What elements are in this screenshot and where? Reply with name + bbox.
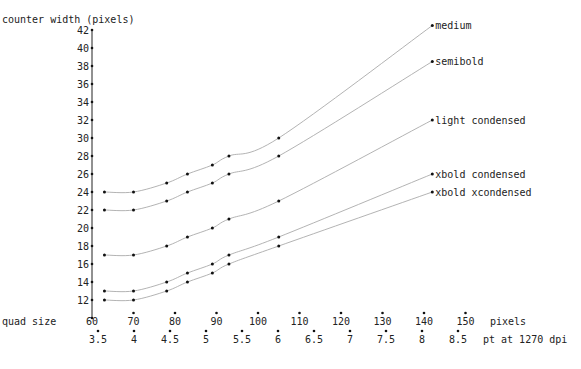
x-axis-label: quad size: [2, 316, 56, 327]
x2-tick-mark: [421, 330, 424, 333]
data-point: [211, 182, 214, 185]
x-ticks: 60708090100110120130140150: [86, 312, 475, 327]
x-tick-mark: [464, 312, 467, 315]
y-tick-label: 34: [77, 97, 89, 108]
y-tick-mark: [91, 29, 94, 32]
y-tick-label: 12: [77, 295, 89, 306]
x2-tick-mark: [385, 330, 388, 333]
series-curve: [104, 120, 432, 256]
data-point: [132, 209, 135, 212]
data-point: [277, 245, 280, 248]
data-point: [165, 290, 168, 293]
x-tick-mark: [132, 312, 135, 315]
y-tick-mark: [91, 191, 94, 194]
x2-tick-label: 5.5: [233, 334, 251, 345]
series-label: light condensed: [435, 115, 525, 126]
x2-tick-mark: [241, 330, 244, 333]
data-point: [211, 227, 214, 230]
x-tick-mark: [298, 312, 301, 315]
x-tick-mark: [257, 312, 260, 315]
x2-tick-label: 4: [131, 334, 137, 345]
x-tick-label: 130: [373, 316, 391, 327]
data-point: [103, 254, 106, 257]
x-tick-label: 150: [456, 316, 474, 327]
data-point: [227, 254, 230, 257]
y-tick-mark: [91, 47, 94, 50]
y-tick-mark: [91, 245, 94, 248]
x2-tick-mark: [133, 330, 136, 333]
x2-tick-mark: [97, 330, 100, 333]
x-tick-label: 100: [249, 316, 267, 327]
y-tick-label: 36: [77, 79, 89, 90]
x2-tick-label: 3.5: [89, 334, 107, 345]
data-point: [165, 281, 168, 284]
y-tick-label: 18: [77, 241, 89, 252]
y-tick-mark: [91, 263, 94, 266]
x2-tick-label: 6: [275, 334, 281, 345]
data-point: [186, 173, 189, 176]
x2-tick-label: 6.5: [305, 334, 323, 345]
x-axis-unit-label: pixels: [490, 316, 526, 327]
series-curve: [104, 192, 432, 301]
series-curve: [104, 174, 432, 292]
data-point: [103, 209, 106, 212]
x2-tick-mark: [169, 330, 172, 333]
data-point: [132, 290, 135, 293]
x2-tick-label: 5: [203, 334, 209, 345]
x-tick-mark: [381, 312, 384, 315]
series-label: medium: [435, 20, 471, 31]
data-point: [431, 60, 434, 63]
data-point: [431, 191, 434, 194]
y-tick-mark: [91, 65, 94, 68]
y-tick-label: 22: [77, 205, 89, 216]
data-point: [277, 137, 280, 140]
data-point: [103, 299, 106, 302]
series-xbold-xcondensed: xbold xcondensed: [103, 187, 532, 302]
x2-tick-label: 8.5: [449, 334, 467, 345]
series-curve: [104, 62, 432, 211]
x2-tick-label: 7: [347, 334, 353, 345]
y-tick-label: 32: [77, 115, 89, 126]
data-point: [227, 155, 230, 158]
y-tick-mark: [91, 209, 94, 212]
x2-tick-mark: [277, 330, 280, 333]
series-semibold: semibold: [103, 56, 484, 212]
x-tick-label: 60: [86, 316, 98, 327]
x-tick-mark: [340, 312, 343, 315]
x-tick-label: 110: [290, 316, 308, 327]
data-point: [211, 164, 214, 167]
y-tick-label: 30: [77, 133, 89, 144]
x2-axis-unit-label: pt at 1270 dpi: [483, 334, 567, 345]
x2-tick-mark: [349, 330, 352, 333]
data-point: [165, 245, 168, 248]
series-medium: medium: [103, 20, 471, 194]
chart: counter width (pixels) 12141618202224262…: [0, 0, 581, 369]
data-point: [277, 155, 280, 158]
x-tick-label: 70: [127, 316, 139, 327]
y-ticks: 12141618202224262830323436384042: [77, 25, 93, 320]
series-group: mediumsemiboldlight condensedxbold conde…: [103, 20, 532, 302]
y-tick-label: 16: [77, 259, 89, 270]
series-label: semibold: [435, 56, 483, 67]
y-tick-mark: [91, 155, 94, 158]
x-tick-label: 80: [169, 316, 181, 327]
data-point: [186, 281, 189, 284]
series-label: xbold condensed: [435, 169, 525, 180]
y-tick-label: 26: [77, 169, 89, 180]
y-tick-label: 38: [77, 61, 89, 72]
data-point: [186, 191, 189, 194]
x-tick-mark: [174, 312, 177, 315]
y-tick-label: 28: [77, 151, 89, 162]
data-point: [431, 24, 434, 27]
y-tick-label: 14: [77, 277, 89, 288]
series-label: xbold xcondensed: [435, 187, 531, 198]
data-point: [165, 182, 168, 185]
data-point: [165, 200, 168, 203]
x2-tick-label: 7.5: [377, 334, 395, 345]
data-point: [132, 254, 135, 257]
y-tick-label: 24: [77, 187, 89, 198]
data-point: [227, 173, 230, 176]
y-tick-mark: [91, 137, 94, 140]
y-tick-label: 20: [77, 223, 89, 234]
x2-ticks: 3.544.555.566.577.588.5: [89, 330, 467, 345]
